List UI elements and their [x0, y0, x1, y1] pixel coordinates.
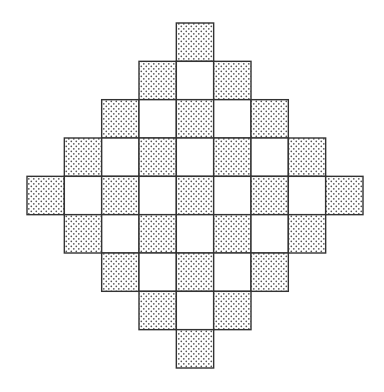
- blank-cell: [139, 176, 176, 214]
- blank-cell: [139, 100, 176, 138]
- blank-cell: [288, 176, 325, 214]
- stippled-cell: [64, 138, 101, 176]
- blank-cell: [251, 138, 288, 176]
- blank-cell: [64, 176, 101, 214]
- stippled-cell: [139, 61, 176, 99]
- stippled-cell: [102, 100, 139, 138]
- stippled-cell: [176, 23, 213, 61]
- diamond-cells: [27, 23, 363, 368]
- stippled-cell: [214, 138, 251, 176]
- blank-cell: [214, 253, 251, 291]
- stippled-cell: [139, 215, 176, 253]
- stippled-cell: [102, 176, 139, 214]
- stippled-cell: [214, 215, 251, 253]
- blank-cell: [176, 138, 213, 176]
- stippled-cell: [176, 100, 213, 138]
- blank-cell: [214, 176, 251, 214]
- stippled-cell: [214, 291, 251, 329]
- stippled-cell: [176, 176, 213, 214]
- blank-cell: [251, 215, 288, 253]
- blank-cell: [102, 138, 139, 176]
- blank-cell: [214, 100, 251, 138]
- stippled-cell: [139, 138, 176, 176]
- stippled-cell: [102, 253, 139, 291]
- stippled-cell: [214, 61, 251, 99]
- stippled-cell: [251, 100, 288, 138]
- stippled-cell: [176, 253, 213, 291]
- blank-cell: [102, 215, 139, 253]
- blank-cell: [176, 61, 213, 99]
- blank-cell: [176, 291, 213, 329]
- stippled-cell: [27, 176, 64, 214]
- stippled-cell: [251, 176, 288, 214]
- blank-cell: [176, 215, 213, 253]
- stippled-cell: [326, 176, 363, 214]
- checkered-diamond-diagram: [0, 0, 384, 392]
- stippled-cell: [288, 138, 325, 176]
- stippled-cell: [64, 215, 101, 253]
- stippled-cell: [176, 330, 213, 368]
- blank-cell: [139, 253, 176, 291]
- stippled-cell: [251, 253, 288, 291]
- stippled-cell: [288, 215, 325, 253]
- stippled-cell: [139, 291, 176, 329]
